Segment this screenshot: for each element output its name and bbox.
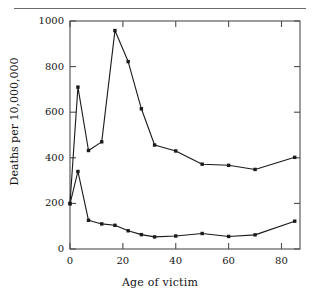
data-point-marker xyxy=(113,224,116,227)
data-point-marker xyxy=(126,60,129,63)
data-point-marker xyxy=(140,107,143,110)
data-point-marker xyxy=(227,235,230,238)
x-axis-ticks xyxy=(70,21,281,249)
x-tick-label: 80 xyxy=(266,255,296,266)
plot-frame xyxy=(70,21,300,249)
y-tick-label: 400 xyxy=(30,152,64,163)
data-point-marker xyxy=(126,229,129,232)
x-tick-label: 20 xyxy=(108,255,138,266)
data-point-marker xyxy=(76,170,79,173)
data-point-marker xyxy=(76,85,79,88)
data-point-marker xyxy=(174,149,177,152)
data-point-marker xyxy=(153,235,156,238)
data-point-marker xyxy=(200,232,203,235)
y-tick-label: 600 xyxy=(30,106,64,117)
y-tick-label: 0 xyxy=(30,243,64,254)
data-point-marker xyxy=(253,168,256,171)
data-point-marker xyxy=(174,234,177,237)
data-point-marker xyxy=(293,156,296,159)
y-tick-label: 1000 xyxy=(30,15,64,26)
chart-figure: Deaths per 10,000,000 Age of victim 0200… xyxy=(0,0,320,304)
series-line-upper-curve xyxy=(70,31,295,204)
x-tick-label: 0 xyxy=(55,255,85,266)
y-tick-label: 800 xyxy=(30,61,64,72)
x-tick-label: 40 xyxy=(161,255,191,266)
data-point-marker xyxy=(227,164,230,167)
data-series-group xyxy=(68,29,296,239)
x-tick-label: 60 xyxy=(214,255,244,266)
y-axis-ticks xyxy=(70,21,300,249)
data-point-marker xyxy=(87,219,90,222)
data-point-marker xyxy=(153,143,156,146)
data-point-marker xyxy=(140,233,143,236)
data-point-marker xyxy=(200,162,203,165)
data-point-marker xyxy=(293,219,296,222)
series-line-lower-curve xyxy=(70,171,295,236)
data-point-marker xyxy=(113,29,116,32)
data-point-marker xyxy=(100,222,103,225)
data-point-marker xyxy=(68,202,71,205)
y-tick-label: 200 xyxy=(30,197,64,208)
data-point-marker xyxy=(87,149,90,152)
data-point-marker xyxy=(253,233,256,236)
data-point-marker xyxy=(100,140,103,143)
